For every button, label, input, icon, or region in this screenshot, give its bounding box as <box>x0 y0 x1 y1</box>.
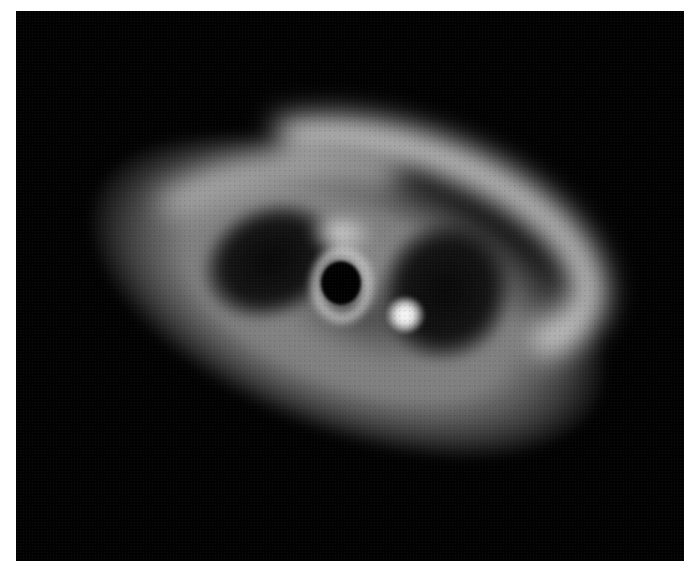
central-cavity <box>321 261 361 305</box>
bright-clump <box>386 297 424 333</box>
disk-image-panel <box>16 11 684 561</box>
